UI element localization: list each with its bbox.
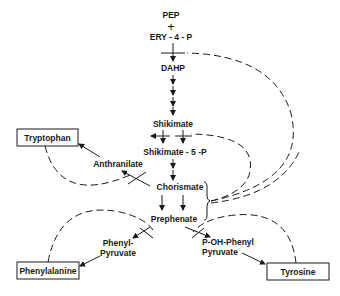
arrow-preph-ohpyr [185, 227, 210, 237]
arrow-ohpyr-tyr [242, 253, 265, 264]
node-anthranilate: Anthranilate [93, 159, 143, 169]
node-pohphenylpyruvate-2: Pyruvate [202, 247, 238, 257]
arrow-anth-trp [79, 144, 100, 157]
end-product-tryptophan: Tryptophan [24, 133, 70, 143]
pathway-diagram: PEP + ERY - 4 - P DAHP Shikimate Shikima… [0, 0, 340, 296]
node-ery4p: ERY - 4 - P [150, 32, 193, 42]
node-shikimate-5p: Shikimate - 5 -P [143, 147, 207, 157]
node-dahp: DAHP [161, 63, 185, 73]
end-product-tyrosine: Tyrosine [281, 267, 316, 277]
arrow-phepyr-phe [80, 256, 100, 266]
node-pohphenylpyruvate-1: P-OH-Phenyl [202, 237, 254, 247]
node-shikimate: Shikimate [153, 119, 193, 129]
node-phenylpyruvate-1: Phenyl- [103, 238, 134, 248]
brace [204, 182, 210, 220]
node-phenylpyruvate-2: Pyruvate [100, 248, 136, 258]
node-prephenate: Prephenate [151, 214, 198, 224]
node-chorismate: Chorismate [157, 182, 204, 192]
end-product-phenylalanine: Phenylalanine [19, 266, 76, 276]
